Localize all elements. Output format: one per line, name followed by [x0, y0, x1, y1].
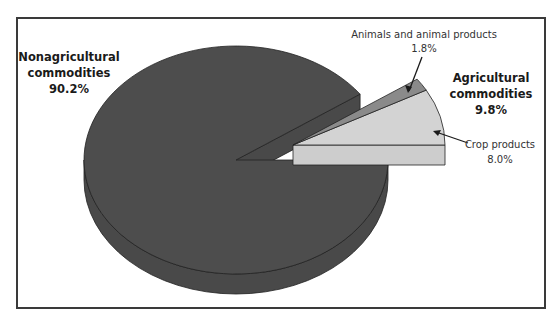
- crop-slice-front-face: [293, 145, 445, 165]
- pie-shapes: [84, 46, 445, 294]
- pie-chart: Nonagricultural commodities 90.2% Agricu…: [0, 0, 559, 322]
- animal-label-line1: Animals and animal products: [351, 29, 497, 40]
- ag-label-line1: Agricultural: [453, 71, 530, 85]
- nonag-label-line1: Nonagricultural: [18, 50, 119, 64]
- crop-label-pct: 8.0%: [487, 154, 512, 165]
- animal-label-pct: 1.8%: [411, 43, 436, 54]
- ag-label-pct: 9.8%: [475, 103, 507, 117]
- crop-label-line1: Crop products: [465, 139, 535, 150]
- nonag-label-line2: commodities: [28, 66, 111, 80]
- ag-label-line2: commodities: [450, 87, 533, 101]
- nonag-label-pct: 90.2%: [49, 82, 89, 96]
